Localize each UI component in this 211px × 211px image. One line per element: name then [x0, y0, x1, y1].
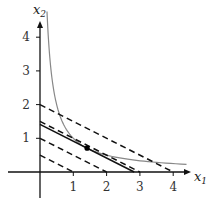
dashed-level-line: [40, 155, 73, 172]
dashed-level-line: [40, 138, 107, 172]
y-ticks: 1234: [22, 30, 40, 145]
y-axis-arrow-icon: [37, 21, 43, 28]
chart-canvas: 1234 1234 x1 x2: [0, 0, 211, 211]
dashed-level-line: [40, 121, 140, 172]
y-tick-label: 4: [22, 30, 30, 44]
y-tick-label: 2: [22, 98, 30, 112]
indifference-curve: [47, 12, 187, 165]
axes: 1234 1234 x1 x2: [8, 2, 207, 198]
x-ticks: 1234: [69, 172, 177, 194]
x-axis-arrow-icon: [184, 169, 191, 175]
y-axis-label: x2: [33, 2, 46, 19]
y-tick-label: 1: [22, 131, 30, 145]
x-tick-label: 4: [169, 180, 177, 194]
x-tick-label: 1: [69, 180, 77, 194]
y-tick-label: 3: [22, 64, 30, 78]
x-tick-label: 3: [136, 180, 144, 194]
plot-area: [40, 12, 187, 172]
x-tick-label: 2: [103, 180, 111, 194]
tangency-point: [84, 146, 89, 151]
x-axis-label: x1: [194, 169, 207, 186]
